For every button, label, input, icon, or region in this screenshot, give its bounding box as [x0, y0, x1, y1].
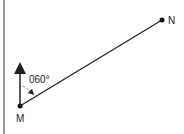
- bearing-arc: [23, 86, 32, 93]
- bearing-diagram: M N 060°: [0, 0, 184, 134]
- bearing-label: 060°: [29, 74, 50, 85]
- point-n: [160, 18, 165, 23]
- line-mn: [20, 20, 162, 106]
- label-m: M: [16, 113, 24, 124]
- label-n: N: [168, 15, 175, 26]
- point-m: [18, 104, 23, 109]
